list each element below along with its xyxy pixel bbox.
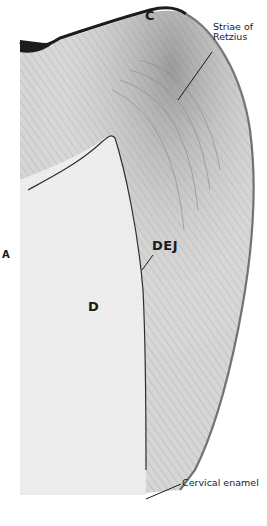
dej-label: DEJ bbox=[152, 239, 178, 253]
panel-label: A bbox=[2, 250, 10, 261]
striae-label: Striae of Retzius bbox=[213, 22, 253, 42]
striae-label-line2: Retzius bbox=[213, 32, 253, 42]
dentin-label: D bbox=[88, 300, 99, 314]
cusp-label: C bbox=[145, 9, 155, 23]
cervical-enamel-label: Cervical enamel bbox=[182, 478, 259, 488]
tooth-micrograph bbox=[0, 0, 267, 526]
